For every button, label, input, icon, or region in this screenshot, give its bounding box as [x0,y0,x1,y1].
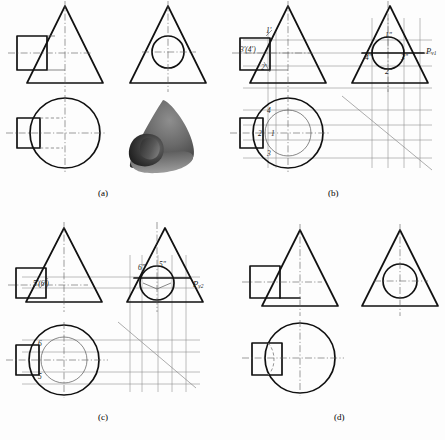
panel-a-caption: (a) [98,188,108,198]
panel-d: (d) [242,224,438,422]
label-point-4-top-b: 4 [267,106,271,115]
panel-d-top-view [242,320,344,396]
engineering-drawing-figure: .out{fill:none;stroke:#111;stroke-width:… [0,0,445,440]
panel-a-top-view [6,95,106,172]
panel-d-front-view [242,224,338,316]
label-point-2-front-b: 2' [261,63,266,72]
panel-d-side-view [362,224,438,316]
panel-a: (a) [6,1,206,198]
label-point-3-top-b: 3 [267,149,271,158]
panel-c-construction-lines [22,255,200,392]
label-cutting-plane-pv1: Pv1 [426,46,436,56]
label-point-34-front-b: 3'(4') [240,45,256,54]
label-point-2-side-b: 2" [385,67,392,76]
panel-b-top-view [230,95,330,172]
panel-a-front-view [8,1,103,92]
panel-b-caption: (b) [328,188,339,198]
label-point-56-front-c: 5'(6') [33,279,49,288]
miter-line-45deg-c [118,322,196,388]
label-point-4-side-b: 4" [365,53,372,62]
label-point-1-side-b: 1" [385,31,392,40]
label-point-3-side-b: 3" [401,53,408,62]
pictorial-bore-floor [140,138,160,160]
panel-c: (c) [6,222,203,422]
label-point-5-top-c: 5 [38,372,42,381]
intersection-curve-top-d [268,343,274,375]
panel-c-top-view [6,322,108,398]
panel-c-caption: (c) [98,412,108,422]
panel-a-side-view [130,1,206,92]
label-point-1-top-b: 1 [271,129,275,138]
panel-d-caption: (d) [334,412,345,422]
label-point-2-top-b: 2 [258,129,262,138]
label-point-6-top-c: 6 [38,339,42,348]
label-cutting-plane-pv2: Pv2 [193,279,203,289]
panel-b-side-view [352,1,428,92]
miter-line-45deg [342,96,432,170]
panel-a-pictorial-view [129,100,194,173]
label-point-6-side-c: 6" [138,263,145,272]
label-point-5-side-c: 5" [159,260,166,269]
label-point-1-front-b: 1' [266,26,271,35]
panel-c-front-view [8,222,102,312]
panel-b: (b) [230,1,432,198]
